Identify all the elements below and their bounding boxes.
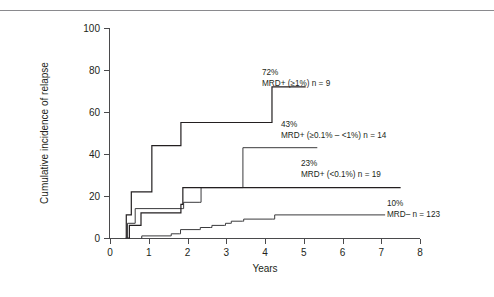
y-tick-label: 60 (89, 107, 101, 118)
y-tick-label: 80 (89, 65, 101, 76)
y-axis-ticks (104, 29, 110, 239)
y-axis-tick-labels: 020406080100 (83, 23, 100, 244)
x-tick-label: 4 (262, 247, 268, 258)
annot-mrd-neg-group: MRD– n = 123 (387, 210, 440, 219)
annot-mrd-high-pct: 72% (262, 68, 278, 77)
x-tick-label: 8 (417, 247, 423, 258)
series-line-2 (127, 188, 400, 238)
annot-mrd-neg-pct: 10% (387, 199, 403, 208)
series-line-1 (126, 148, 317, 238)
series-line-3 (141, 215, 385, 238)
y-axis-title: Cumulative incidence of relapse (39, 62, 50, 204)
y-tick-label: 100 (83, 23, 100, 34)
y-tick-label: 40 (89, 149, 101, 160)
y-tick-label: 0 (94, 233, 100, 244)
x-tick-label: 3 (223, 247, 229, 258)
x-axis-title: Years (252, 263, 277, 274)
annot-mrd-high: 72%MRD+ (≥1%) n = 9 (262, 68, 331, 88)
annot-mrd-neg: 10%MRD– n = 123 (387, 199, 440, 219)
x-tick-label: 5 (301, 247, 307, 258)
x-tick-label: 7 (378, 247, 384, 258)
x-tick-label: 0 (107, 247, 113, 258)
annot-mrd-mid-group: MRD+ (≥0.1% – <1%) n = 14 (281, 131, 387, 140)
x-tick-label: 6 (340, 247, 346, 258)
annot-mrd-mid-pct: 43% (281, 120, 297, 129)
y-tick-label: 20 (89, 191, 101, 202)
figure-root: 020406080100 Cumulative incidence of rel… (0, 0, 494, 297)
x-tick-label: 1 (146, 247, 152, 258)
annot-mrd-high-group: MRD+ (≥1%) n = 9 (262, 79, 331, 88)
x-axis: 012345678 Years (107, 239, 423, 275)
x-axis-tick-labels: 012345678 (107, 247, 423, 258)
x-tick-label: 2 (185, 247, 191, 258)
curve-annotations: 72%MRD+ (≥1%) n = 943%MRD+ (≥0.1% – <1%)… (262, 68, 440, 219)
annot-mrd-low-pct: 23% (301, 159, 317, 168)
annot-mrd-low: 23%MRD+ (<0.1%) n = 19 (301, 159, 381, 179)
y-axis: 020406080100 Cumulative incidence of rel… (39, 23, 110, 244)
step-curves (126, 87, 401, 238)
annot-mrd-low-group: MRD+ (<0.1%) n = 19 (301, 170, 381, 179)
relapse-incidence-chart: 020406080100 Cumulative incidence of rel… (0, 0, 494, 297)
annot-mrd-mid: 43%MRD+ (≥0.1% – <1%) n = 14 (281, 120, 387, 140)
x-axis-ticks (111, 239, 421, 245)
